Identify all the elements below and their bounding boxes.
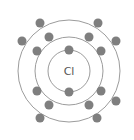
electron-dot — [36, 19, 45, 28]
electron-dot — [65, 46, 74, 55]
electron-dot — [97, 47, 106, 56]
electron-dot — [33, 47, 42, 56]
electron-dot — [18, 37, 27, 46]
electron-dot — [112, 97, 121, 106]
electron-dot — [33, 87, 42, 96]
electron-dot — [65, 88, 74, 97]
electron-dot — [94, 19, 103, 28]
electron-dot — [85, 33, 94, 42]
electron-dot — [97, 87, 106, 96]
electron-dot — [85, 101, 94, 110]
electron-dot — [93, 114, 102, 123]
electron-dot — [45, 33, 54, 42]
electron-dot — [45, 101, 54, 110]
electron-dot — [112, 37, 121, 46]
electron-dot — [36, 114, 45, 123]
bohr-model-diagram: Cl — [0, 0, 134, 140]
nucleus-label: Cl — [64, 65, 75, 78]
